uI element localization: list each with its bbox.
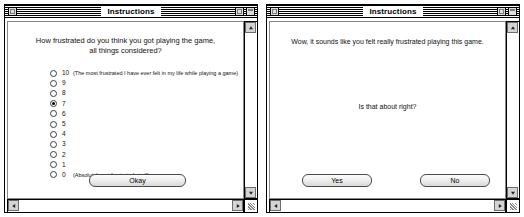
titlebar-right[interactable]: Instructions	[267, 5, 519, 18]
zoom-icon[interactable]	[497, 7, 506, 16]
yes-button[interactable]: Yes	[302, 174, 372, 187]
close-icon[interactable]	[8, 7, 17, 16]
radio-option-6[interactable]: 6	[50, 109, 243, 119]
scroll-down-arrow-icon-left[interactable]	[245, 187, 256, 198]
window-body-right: Wow, it sounds like you felt really frus…	[267, 19, 519, 212]
zoom-icon[interactable]	[235, 7, 244, 16]
instructions-window-confirm: Instructions Wow, it sounds like you fel…	[266, 4, 520, 213]
radio-label-9: 9	[62, 79, 70, 87]
scroll-up-arrow-icon-right[interactable]	[507, 22, 518, 33]
rating-prompt-line-2: all things considered?	[22, 46, 229, 56]
radio-label-7: 7	[62, 100, 70, 108]
radio-option-8[interactable]: 8	[50, 88, 243, 98]
window-title-right: Instructions	[363, 6, 424, 17]
radio-option-10[interactable]: 10 (The most frustrated I have ever felt…	[50, 68, 243, 78]
scroll-down-arrow-icon-right[interactable]	[507, 187, 518, 198]
confirm-message-primary: Wow, it sounds like you felt really frus…	[276, 37, 499, 47]
radio-option-1[interactable]: 1	[50, 160, 243, 170]
scroll-right-arrow-icon-right[interactable]	[494, 200, 505, 211]
radio-icon-8[interactable]	[50, 90, 57, 97]
resize-grip-left[interactable]	[244, 199, 257, 212]
radio-label-2: 2	[62, 151, 70, 159]
radio-icon-3[interactable]	[50, 141, 57, 148]
radio-icon-1[interactable]	[50, 161, 57, 168]
vertical-scrollbar-left[interactable]	[244, 21, 257, 199]
vertical-scroll-track-left[interactable]	[245, 33, 257, 187]
radio-option-7[interactable]: 7	[50, 99, 243, 109]
rating-prompt: How frustrated do you think you got play…	[22, 36, 229, 56]
radio-label-3: 3	[62, 140, 70, 148]
radio-note-10: (The most frustrated I have ever felt in…	[73, 69, 238, 77]
horizontal-scrollbar-right[interactable]	[269, 199, 506, 212]
window-body-left: How frustrated do you think you got play…	[5, 19, 257, 212]
no-button[interactable]: No	[420, 174, 490, 187]
window-title-left: Instructions	[101, 6, 162, 17]
scroll-left-arrow-icon-left[interactable]	[8, 200, 19, 211]
radio-icon-10[interactable]	[50, 70, 57, 77]
collapse-icon[interactable]	[246, 7, 255, 16]
radio-icon-0[interactable]	[50, 171, 57, 178]
radio-label-10: 10	[62, 69, 70, 77]
horizontal-scroll-track-right[interactable]	[281, 200, 494, 212]
radio-label-8: 8	[62, 89, 70, 97]
radio-label-5: 5	[62, 120, 70, 128]
vertical-scroll-track-right[interactable]	[507, 33, 519, 187]
radio-label-0: 0	[62, 171, 70, 179]
radio-icon-4[interactable]	[50, 131, 57, 138]
rating-prompt-line-1: How frustrated do you think you got play…	[22, 36, 229, 46]
collapse-icon[interactable]	[508, 7, 517, 16]
okay-button[interactable]: Okay	[89, 174, 186, 187]
radio-label-1: 1	[62, 161, 70, 169]
scroll-up-arrow-icon-left[interactable]	[245, 22, 256, 33]
rating-radio-group: 10 (The most frustrated I have ever felt…	[50, 68, 243, 180]
titlebar-left[interactable]: Instructions	[5, 5, 257, 18]
radio-label-4: 4	[62, 130, 70, 138]
instructions-window-rating: Instructions How frustrated do you think…	[4, 4, 258, 213]
close-icon[interactable]	[270, 7, 279, 16]
radio-icon-7[interactable]	[50, 100, 57, 107]
radio-icon-9[interactable]	[50, 80, 57, 87]
radio-label-6: 6	[62, 110, 70, 118]
radio-icon-6[interactable]	[50, 110, 57, 117]
radio-option-2[interactable]: 2	[50, 150, 243, 160]
scroll-left-arrow-icon-right[interactable]	[270, 200, 281, 211]
confirm-message-question: Is that about right?	[270, 102, 505, 112]
radio-option-4[interactable]: 4	[50, 129, 243, 139]
screen: Instructions How frustrated do you think…	[0, 0, 524, 217]
content-pane-left: How frustrated do you think you got play…	[7, 21, 244, 199]
radio-option-5[interactable]: 5	[50, 119, 243, 129]
radio-icon-5[interactable]	[50, 121, 57, 128]
radio-option-3[interactable]: 3	[50, 139, 243, 149]
horizontal-scrollbar-left[interactable]	[7, 199, 244, 212]
content-pane-right: Wow, it sounds like you felt really frus…	[269, 21, 506, 199]
horizontal-scroll-track-left[interactable]	[19, 200, 232, 212]
resize-grip-right[interactable]	[506, 199, 519, 212]
radio-icon-2[interactable]	[50, 151, 57, 158]
radio-option-9[interactable]: 9	[50, 78, 243, 88]
vertical-scrollbar-right[interactable]	[506, 21, 519, 199]
scroll-right-arrow-icon-left[interactable]	[232, 200, 243, 211]
